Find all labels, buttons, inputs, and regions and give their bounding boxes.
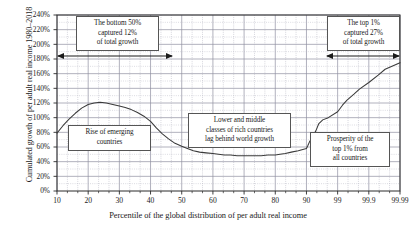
top-1-arrow (326, 53, 400, 59)
y-tick-label: 60% (20, 142, 50, 151)
bottom-50-note: The bottom 50%captured 12%of total growt… (76, 16, 159, 51)
rich-countries-note: Lower and middleclasses of rich countrie… (188, 113, 291, 148)
y-tick-label: 180% (20, 54, 50, 63)
x-tick-label: 99.99 (380, 196, 416, 205)
note-line: The top 1% (331, 19, 396, 29)
note-line: all countries (314, 154, 386, 164)
emerging-countries-note: Rise of emergingcountries (68, 125, 151, 151)
annotation-arrows (57, 53, 400, 59)
note-line: Prosperity of the (314, 135, 386, 145)
note-line: classes of rich countries (192, 126, 287, 136)
y-tick-label: 40% (20, 157, 50, 166)
top-1-note: The top 1%captured 27%of total growth (327, 16, 400, 51)
note-line: captured 27% (331, 29, 396, 39)
y-tick-label: 140% (20, 84, 50, 93)
y-tick-label: 200% (20, 40, 50, 49)
note-line: The bottom 50% (80, 19, 155, 29)
prosperity-note: Prosperity of thetop 1% fromall countrie… (310, 132, 390, 167)
y-tick-label: 160% (20, 69, 50, 78)
x-axis-title: Percentile of the global distribution of… (0, 211, 416, 220)
note-line: countries (72, 138, 147, 148)
y-tick-label: 80% (20, 128, 50, 137)
note-line: of total growth (80, 38, 155, 48)
y-tick-label: 120% (20, 98, 50, 107)
y-tick-label: 100% (20, 113, 50, 122)
bottom-50-arrow (57, 53, 173, 59)
y-tick-label: 20% (20, 172, 50, 181)
note-line: of total growth (331, 38, 396, 48)
y-tick-label: 240% (20, 10, 50, 19)
note-line: captured 12% (80, 29, 155, 39)
y-tick-label: 220% (20, 25, 50, 34)
note-line: top 1% from (314, 145, 386, 155)
note-line: Lower and middle (192, 116, 287, 126)
chart-figure: Cumulated growth of per adult real incom… (0, 0, 416, 232)
note-line: lag behind world growth (192, 135, 287, 145)
note-line: Rise of emerging (72, 128, 147, 138)
y-tick-label: 0% (20, 186, 50, 195)
